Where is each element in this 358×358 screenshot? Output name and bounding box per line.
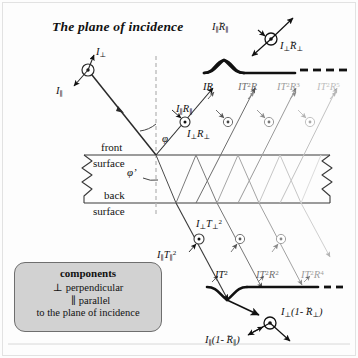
- plane-of-incidence-figure: The plane of incidence I⊥ I∥ I∥~R∥ I⊥~R⊥…: [0, 0, 358, 358]
- top-brace: [204, 60, 347, 73]
- slab-left-tear: [82, 155, 92, 203]
- legend-title: components: [15, 267, 161, 279]
- total-transmitted-node: [248, 317, 290, 341]
- total-reflected-node: [252, 18, 293, 56]
- parallel-symbol: ∥: [66, 294, 76, 306]
- internal-rays: [156, 155, 321, 203]
- legend-row-perpendicular: ⊥perpendicular: [15, 281, 161, 293]
- components-legend: components ⊥perpendicular ∥parallel to t…: [14, 262, 162, 332]
- parallel-label: parallel: [79, 295, 110, 306]
- slab-right-tear: [322, 155, 332, 203]
- incident-ray: [74, 55, 156, 155]
- legend-footer: to the plane of incidence: [15, 307, 161, 318]
- bottom-brace: [207, 287, 343, 315]
- legend-row-parallel: ∥parallel: [15, 294, 161, 306]
- transmitted-rays: [176, 203, 330, 300]
- angle-arcs: [140, 124, 158, 180]
- perpendicular-symbol: ⊥: [53, 281, 63, 293]
- perpendicular-label: perpendicular: [66, 282, 124, 293]
